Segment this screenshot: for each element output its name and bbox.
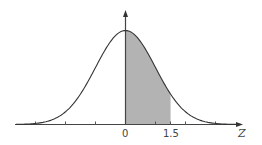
tick-label-one-five: 1.5 bbox=[163, 129, 179, 139]
axis-label-z: Z bbox=[238, 128, 246, 139]
normal-distribution-chart bbox=[0, 0, 262, 145]
shaded-area-0-to-1-5 bbox=[126, 31, 171, 125]
y-axis-arrow-icon bbox=[123, 10, 128, 17]
tick-label-zero: 0 bbox=[122, 129, 128, 139]
